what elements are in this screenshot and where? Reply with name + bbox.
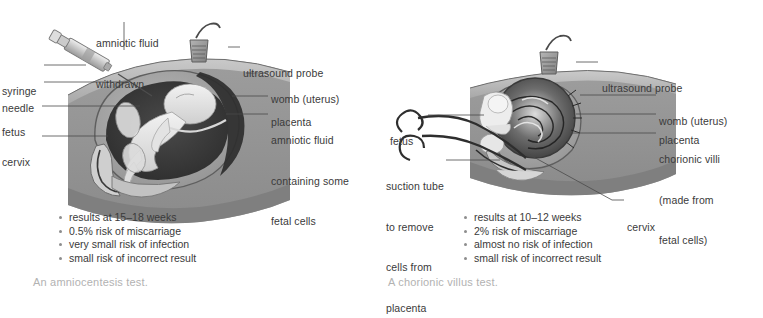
chorionic-villus-bullet-list: results at 10–12 weeks 2% risk of miscar…: [463, 211, 601, 265]
label-suction-tube: suction tube to remove cells from placen…: [386, 153, 444, 318]
label-chorionic-villi: chorionic villi (made from fetal cells): [659, 126, 720, 275]
ultrasound-probe-shape: [190, 24, 220, 63]
label-line: placenta: [386, 302, 444, 316]
label-line: cells from: [386, 261, 444, 275]
chorionic-villus-panel: ultrasound probe fetus suction tube to r…: [380, 0, 763, 299]
list-item: small risk of incorrect result: [58, 252, 196, 266]
amniocentesis-caption: An amniocentesis test.: [33, 276, 148, 288]
label-line: (made from: [659, 194, 720, 208]
label-line: to remove: [386, 221, 444, 235]
label-line: containing some: [271, 175, 349, 189]
list-item: small risk of incorrect result: [463, 252, 601, 266]
label-line: amniotic fluid: [96, 37, 159, 51]
ultrasound-probe-shape: [540, 36, 571, 74]
chorionic-villus-caption: A chorionic villus test.: [388, 276, 498, 288]
list-item: 2% risk of miscarriage: [463, 225, 601, 239]
list-item: results at 15–18 weeks: [58, 211, 196, 225]
list-item: results at 10–12 weeks: [463, 211, 601, 225]
label-line: cervix: [2, 156, 30, 170]
label-line: amniotic fluid: [271, 134, 349, 148]
label-amniotic-fluid-fetal-cells: amniotic fluid containing some fetal cel…: [271, 107, 349, 256]
list-item: very small risk of infection: [58, 238, 196, 252]
list-item: 0.5% risk of miscarriage: [58, 225, 196, 239]
label-line: fetus: [390, 135, 413, 149]
label-line: fetal cells: [271, 215, 349, 229]
label-line: withdrawn: [96, 78, 159, 92]
amniocentesis-panel: amniotic fluid withdrawn syringe needle …: [0, 0, 390, 299]
label-amniotic-fluid-withdrawn: amniotic fluid withdrawn: [96, 10, 159, 118]
label-line: chorionic villi: [659, 153, 720, 167]
label-line: fetal cells): [659, 234, 720, 248]
label-cervix: cervix: [627, 194, 655, 262]
label-cervix: cervix: [2, 129, 30, 197]
label-line: cervix: [627, 221, 655, 235]
amniocentesis-bullet-list: results at 15–18 weeks 0.5% risk of misc…: [58, 211, 196, 265]
list-item: almost no risk of infection: [463, 238, 601, 252]
label-line: suction tube: [386, 180, 444, 194]
